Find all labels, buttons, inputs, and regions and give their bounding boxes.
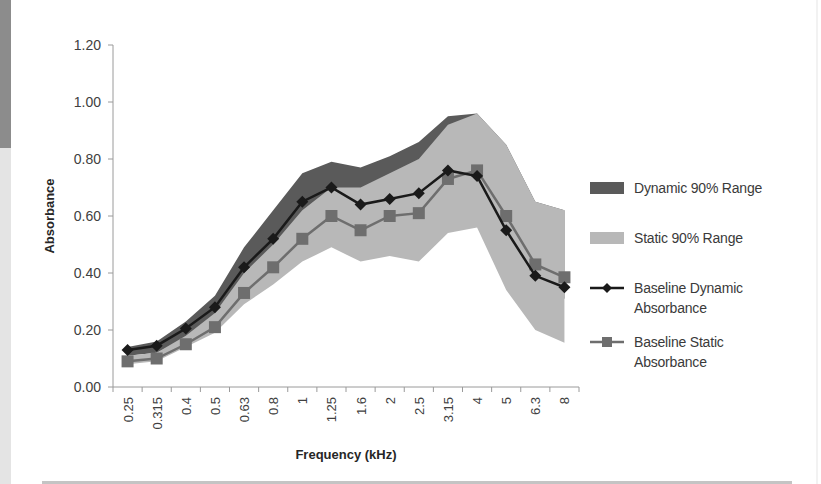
y-tick-label: 0.40: [74, 265, 101, 281]
square-marker: [355, 224, 367, 236]
x-tick-label: 1.25: [324, 397, 339, 422]
square-marker: [413, 207, 425, 219]
square-marker: [180, 338, 192, 350]
x-tick-label: 4: [470, 397, 485, 404]
diamond-marker-line-icon: [590, 278, 624, 298]
x-tick-label: 1: [295, 397, 310, 404]
y-tick-label: 1.00: [74, 94, 101, 110]
legend-item-dynamic-range: Dynamic 90% Range: [590, 178, 762, 198]
x-tick-label: 3.15: [441, 397, 456, 422]
y-tick-label: 0.60: [74, 208, 101, 224]
x-tick-label: 0.4: [179, 397, 194, 415]
square-marker: [296, 233, 308, 245]
x-axis-ticks: 0.250.3150.40.50.630.811.251.622.53.1545…: [113, 387, 579, 430]
x-tick-label: 0.25: [121, 397, 136, 422]
y-tick-label: 0.00: [74, 379, 101, 395]
x-tick-label: 0.63: [237, 397, 252, 422]
y-tick-label: 1.20: [74, 37, 101, 53]
legend-item-static-range: Static 90% Range: [590, 228, 743, 248]
x-tick-label: 5: [499, 397, 514, 404]
legend-label-line1: Baseline Static: [634, 332, 724, 352]
y-axis-title: Absorbance: [42, 178, 57, 253]
square-marker: [151, 353, 163, 365]
legend-label: Dynamic 90% Range: [634, 178, 762, 198]
square-marker: [325, 210, 337, 222]
y-tick-label: 0.80: [74, 151, 101, 167]
x-tick-label: 6.3: [528, 397, 543, 415]
square-marker: [238, 287, 250, 299]
y-axis-ticks: 0.000.200.400.600.801.001.20: [74, 37, 113, 395]
x-tick-label: 0.5: [208, 397, 223, 415]
legend-label-line1: Baseline Dynamic: [634, 278, 743, 298]
static-range-swatch-icon: [590, 232, 624, 244]
square-marker: [122, 355, 134, 367]
x-tick-label: 1.6: [354, 397, 369, 415]
dynamic-range-swatch-icon: [590, 182, 624, 194]
square-marker: [267, 261, 279, 273]
square-marker: [209, 321, 221, 333]
legend-label-line2: Absorbance: [634, 352, 724, 372]
square-marker: [384, 210, 396, 222]
legend-item-baseline-dynamic: Baseline Dynamic Absorbance: [590, 278, 743, 318]
legend-label-line2: Absorbance: [634, 298, 743, 318]
legend-item-baseline-static: Baseline Static Absorbance: [590, 332, 724, 372]
x-tick-label: 0.8: [266, 397, 281, 415]
x-tick-label: 0.315: [150, 397, 165, 430]
x-tick-label: 2: [383, 397, 398, 404]
legend-label: Static 90% Range: [634, 228, 743, 248]
y-tick-label: 0.20: [74, 322, 101, 338]
square-marker-line-icon: [590, 332, 624, 352]
x-axis-title: Frequency (kHz): [295, 447, 396, 462]
range-bands: [128, 113, 565, 364]
x-tick-label: 8: [557, 397, 572, 404]
x-tick-label: 2.5: [412, 397, 427, 415]
